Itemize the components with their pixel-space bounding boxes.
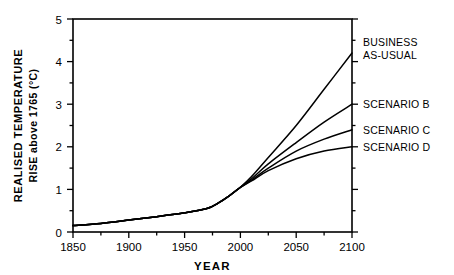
series-label: SCENARIO D [363, 141, 431, 153]
x-tick-label: 2000 [228, 241, 254, 253]
chart-figure: 185019001950200020502100 012345 BUSINESS… [0, 0, 454, 275]
y-tick-label: 1 [56, 184, 62, 196]
series-line [73, 104, 352, 225]
plot-frame [73, 19, 352, 232]
x-axis-title: YEAR [194, 260, 231, 272]
x-tick-label: 1900 [116, 241, 142, 253]
series-line [73, 53, 352, 226]
axis-titles: REALISED TEMPERATURERISE above 1765 (°C)… [12, 49, 231, 272]
y-axis-title-line2: RISE above 1765 (°C) [27, 69, 39, 183]
series-lines [73, 53, 352, 226]
y-axis-ticks [67, 19, 358, 232]
y-tick-label: 2 [56, 141, 62, 153]
y-tick-label: 4 [56, 56, 63, 68]
y-tick-label: 0 [56, 227, 62, 239]
series-label: AS-USUAL [363, 49, 417, 61]
series-line [73, 130, 352, 226]
x-tick-label: 2050 [283, 241, 309, 253]
y-tick-label: 3 [56, 99, 62, 111]
x-tick-label: 1950 [172, 241, 198, 253]
series-label: BUSINESS [363, 36, 418, 48]
x-axis-ticks [73, 232, 352, 238]
plot-border [73, 19, 352, 232]
series-line [73, 147, 352, 226]
x-tick-label: 1850 [60, 241, 86, 253]
series-label: SCENARIO C [363, 124, 431, 136]
y-axis-title-line1: REALISED TEMPERATURE [12, 49, 24, 203]
x-axis-tick-labels: 185019001950200020502100 [60, 241, 365, 253]
y-tick-label: 5 [56, 14, 62, 26]
series-label: SCENARIO B [363, 98, 430, 110]
series-labels: BUSINESSAS-USUALSCENARIO BSCENARIO CSCEN… [363, 36, 431, 153]
temperature-rise-line-chart: 185019001950200020502100 012345 BUSINESS… [0, 0, 454, 275]
y-axis-tick-labels: 012345 [56, 14, 63, 239]
x-tick-label: 2100 [339, 241, 365, 253]
